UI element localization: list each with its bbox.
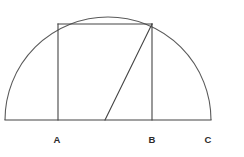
point-label-a: A — [54, 134, 61, 145]
point-label-b: B — [149, 134, 156, 145]
geometry-canvas: A B C — [0, 0, 244, 157]
geometry-figure: A B C — [0, 0, 244, 157]
point-label-c: C — [205, 134, 212, 145]
